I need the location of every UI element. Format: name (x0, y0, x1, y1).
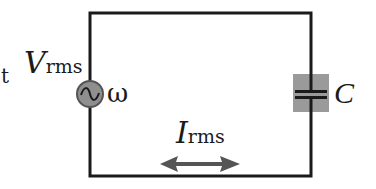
current-symbol: I (176, 115, 188, 150)
voltage-symbol: V (24, 45, 46, 80)
current-label: Irms (176, 118, 225, 148)
circuit-diagram (0, 0, 376, 189)
voltage-label: Vrms (24, 48, 83, 78)
voltage-subscript: rms (46, 55, 83, 77)
frequency-label: ω (107, 80, 128, 106)
cut-off-text-fragment: t (1, 66, 9, 86)
capacitance-label: C (334, 78, 354, 108)
capacitor-icon (293, 74, 329, 112)
ac-source-icon (77, 81, 103, 107)
current-subscript: rms (188, 125, 225, 147)
current-double-arrow-icon (160, 156, 240, 172)
